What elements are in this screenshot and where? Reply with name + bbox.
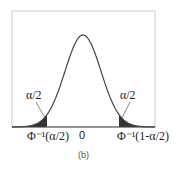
right-pointer-line (122, 102, 130, 118)
plot-frame (12, 11, 155, 127)
left-tail-area-label: α/2 (26, 88, 42, 103)
right-tail-area-label: α/2 (120, 88, 136, 103)
normal-density-diagram (0, 0, 178, 172)
center-zero-label: 0 (79, 129, 85, 141)
left-critical-value-label: Φ⁻¹(α/2) (27, 129, 69, 144)
left-pointer-line (36, 102, 45, 118)
right-critical-value-label: Φ⁻¹(1-α/2) (117, 129, 169, 144)
figure-caption: (b) (78, 150, 89, 160)
density-curve (12, 35, 155, 127)
